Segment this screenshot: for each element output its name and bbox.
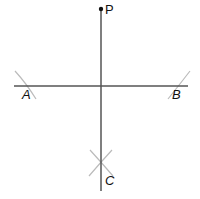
point-p-dot [99, 7, 103, 11]
label-c: C [105, 173, 115, 188]
label-a: A [21, 87, 31, 102]
label-p: P [105, 2, 114, 17]
label-b: B [172, 87, 181, 102]
geometry-diagram: P A B C [0, 0, 200, 199]
